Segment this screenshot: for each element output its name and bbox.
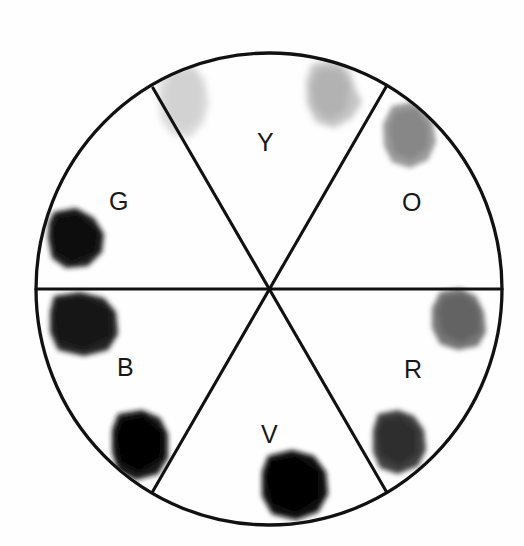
color-wheel-canvas bbox=[0, 0, 524, 546]
blob-red-2 bbox=[373, 410, 426, 474]
sector-label-orange: O bbox=[402, 190, 422, 215]
sector-label-violet: V bbox=[261, 422, 278, 447]
blob-yellow-1 bbox=[158, 64, 209, 138]
sector-label-yellow: Y bbox=[257, 130, 274, 155]
blob-orange-1 bbox=[383, 102, 436, 168]
blob-red-1 bbox=[432, 288, 486, 350]
color-wheel-figure: Y O R V B G bbox=[0, 0, 524, 546]
blob-violet-1 bbox=[262, 450, 328, 520]
blob-green-1 bbox=[48, 208, 104, 268]
sector-label-red: R bbox=[404, 357, 423, 382]
sector-label-green: G bbox=[109, 189, 129, 214]
blob-blue-1 bbox=[50, 292, 118, 356]
sector-label-blue: B bbox=[117, 355, 134, 380]
